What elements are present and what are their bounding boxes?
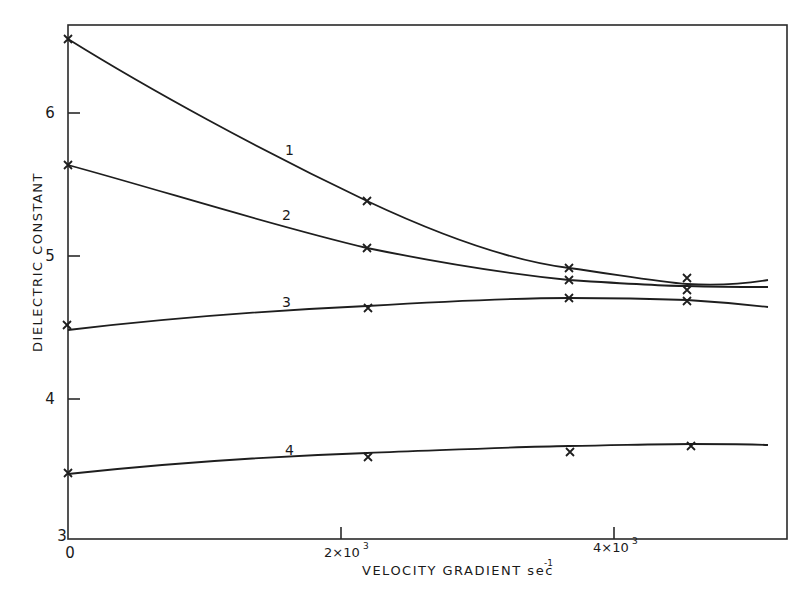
marker-c4-2200 xyxy=(364,453,372,461)
curve-label-4: 4 xyxy=(285,442,294,458)
y-tick-6: 6 xyxy=(45,104,55,122)
marker-c4-3670 xyxy=(566,448,574,456)
marker-c1-4530 xyxy=(683,274,691,282)
y-tick-4: 4 xyxy=(45,390,55,408)
y-axis-label: DIELECTRIC CONSTANT xyxy=(30,172,45,352)
curve-label-2: 2 xyxy=(282,207,291,223)
svg-text:3: 3 xyxy=(632,536,638,546)
svg-text:3: 3 xyxy=(363,541,369,551)
marker-c1-2200 xyxy=(363,197,371,205)
curve-label-1: 1 xyxy=(285,142,294,158)
x-tick-0: 0 xyxy=(65,544,75,562)
curve-4 xyxy=(68,444,768,474)
marker-c3-0 xyxy=(63,321,71,329)
marker-c2-4530 xyxy=(683,286,691,294)
curve-3 xyxy=(68,298,768,330)
x-tick-2000: 2×10 3 xyxy=(324,541,369,560)
svg-text:4×10: 4×10 xyxy=(593,540,629,555)
x-axis-label: VELOCITY GRADIENT sec -1 xyxy=(362,558,554,578)
x-axis-ticks xyxy=(341,527,614,539)
svg-text:2×10: 2×10 xyxy=(324,545,360,560)
curve-label-3: 3 xyxy=(282,294,291,310)
y-tick-5: 5 xyxy=(45,247,55,265)
data-markers xyxy=(63,35,695,477)
svg-text:-1: -1 xyxy=(544,558,553,568)
y-tick-3: 3 xyxy=(57,527,67,545)
curve-2 xyxy=(68,165,768,287)
curve-1 xyxy=(68,39,768,285)
dielectric-constant-chart: 6 5 4 3 0 2×10 3 4×10 3 VELOCITY GRADIEN… xyxy=(0,0,808,595)
y-axis-ticks xyxy=(68,113,80,399)
svg-text:VELOCITY GRADIENT sec: VELOCITY GRADIENT sec xyxy=(362,563,554,578)
